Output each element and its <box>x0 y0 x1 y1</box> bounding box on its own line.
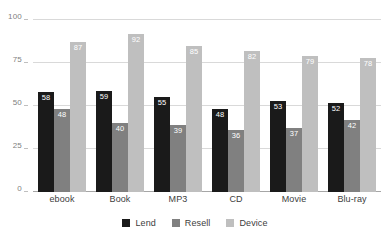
bar[interactable]: 55 <box>154 97 170 192</box>
x-axis-tick-label: Blu-ray <box>323 194 381 204</box>
bar-value-label: 78 <box>364 59 373 68</box>
bar[interactable]: 79 <box>302 56 318 192</box>
x-axis-tick-label: ebook <box>33 194 91 204</box>
y-axis: 0255075100 <box>0 20 28 192</box>
bar-group: 553985 <box>149 20 207 192</box>
bar-group: 594092 <box>91 20 149 192</box>
bar[interactable]: 85 <box>186 46 202 192</box>
bar[interactable]: 37 <box>286 128 302 192</box>
bar-group: 524278 <box>323 20 381 192</box>
x-axis-tick-label: CD <box>207 194 265 204</box>
bar-value-label: 36 <box>232 131 241 140</box>
bar-value-label: 39 <box>174 126 183 135</box>
bar[interactable]: 92 <box>128 34 144 192</box>
bar-value-label: 40 <box>116 124 125 133</box>
legend-label: Device <box>239 218 267 228</box>
y-axis-tick-mark <box>24 105 28 106</box>
legend: LendResellDevice <box>0 218 390 228</box>
bar-groups: 584887594092553985483682533779524278 <box>33 20 381 192</box>
y-axis-tick-mark <box>24 62 28 63</box>
bar-value-label: 79 <box>306 57 315 66</box>
bar[interactable]: 48 <box>54 109 70 192</box>
legend-item[interactable]: Lend <box>122 218 155 228</box>
x-axis-tick-label: Book <box>91 194 149 204</box>
bar[interactable]: 59 <box>96 91 112 192</box>
y-axis-tick-label: 25 <box>13 141 22 150</box>
bar[interactable]: 52 <box>328 103 344 192</box>
bar[interactable]: 87 <box>70 42 86 192</box>
bar[interactable]: 40 <box>112 123 128 192</box>
bar-value-label: 52 <box>332 104 341 113</box>
y-axis-tick-label: 75 <box>13 55 22 64</box>
bar-group: 584887 <box>33 20 91 192</box>
plot-area: 584887594092553985483682533779524278 <box>33 20 381 192</box>
bar-group: 533779 <box>265 20 323 192</box>
bar-chart: 0255075100 58488759409255398548368253377… <box>0 0 390 241</box>
bar-value-label: 58 <box>42 93 51 102</box>
bar-value-label: 87 <box>74 43 83 52</box>
bar-value-label: 37 <box>290 129 299 138</box>
bar-value-label: 48 <box>216 110 225 119</box>
y-axis-tick-label: 0 <box>17 184 22 193</box>
bar-value-label: 82 <box>248 52 257 61</box>
y-axis-tick-mark <box>24 191 28 192</box>
y-axis-tick-label: 100 <box>8 12 22 21</box>
legend-label: Resell <box>185 218 211 228</box>
x-axis-tick-label: Movie <box>265 194 323 204</box>
bar[interactable]: 78 <box>360 58 376 192</box>
bar-value-label: 85 <box>190 47 199 56</box>
legend-swatch-icon <box>172 219 180 227</box>
x-axis-tick-label: MP3 <box>149 194 207 204</box>
y-axis-tick-mark <box>24 148 28 149</box>
bar[interactable]: 82 <box>244 51 260 192</box>
bar-value-label: 59 <box>100 92 109 101</box>
bar-value-label: 42 <box>348 121 357 130</box>
legend-label: Lend <box>135 218 155 228</box>
bar[interactable]: 39 <box>170 125 186 192</box>
bar[interactable]: 36 <box>228 130 244 192</box>
legend-item[interactable]: Resell <box>172 218 211 228</box>
bar-value-label: 53 <box>274 102 283 111</box>
bar-value-label: 92 <box>132 35 141 44</box>
bar[interactable]: 42 <box>344 120 360 192</box>
bar-value-label: 48 <box>58 110 67 119</box>
y-axis-tick-label: 50 <box>13 98 22 107</box>
legend-swatch-icon <box>122 219 130 227</box>
bar-value-label: 55 <box>158 98 167 107</box>
legend-swatch-icon <box>226 219 234 227</box>
bar[interactable]: 58 <box>38 92 54 192</box>
bar[interactable]: 48 <box>212 109 228 192</box>
x-axis-categories: ebookBookMP3CDMovieBlu-ray <box>33 194 381 204</box>
legend-item[interactable]: Device <box>226 218 267 228</box>
bar[interactable]: 53 <box>270 101 286 192</box>
y-axis-tick-mark <box>24 19 28 20</box>
bar-group: 483682 <box>207 20 265 192</box>
